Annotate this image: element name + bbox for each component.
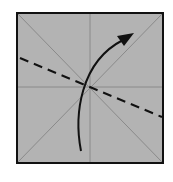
origami-diagram <box>0 0 173 182</box>
